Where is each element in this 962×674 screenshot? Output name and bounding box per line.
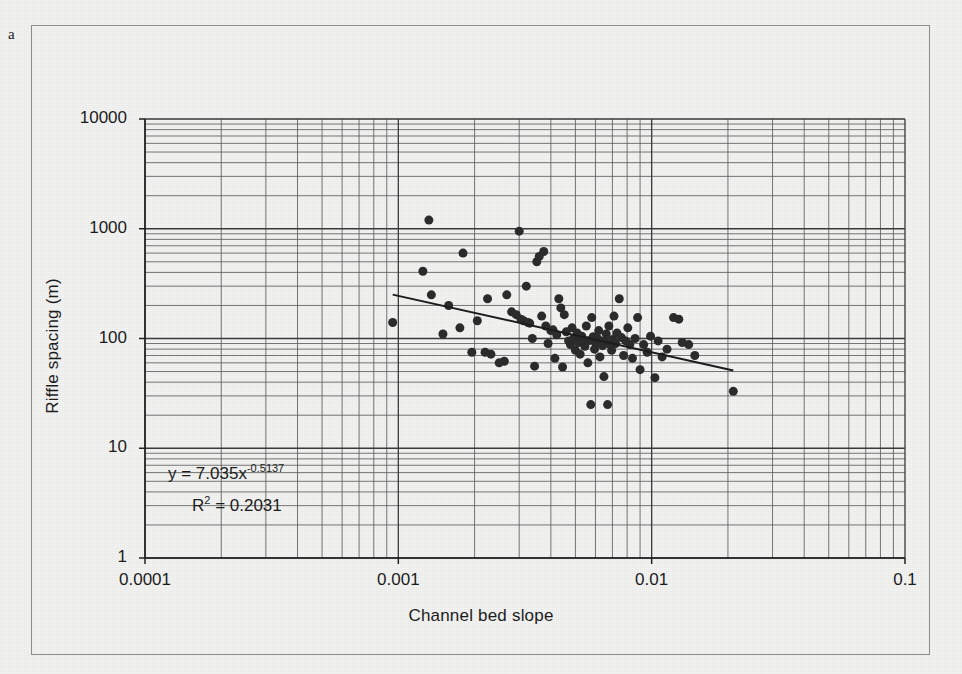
x-tick-label: 0.0001: [85, 570, 205, 590]
x-tick-label: 0.1: [845, 570, 962, 590]
y-tick-label: 1: [47, 547, 127, 567]
y-axis-title: Riffle spacing (m): [43, 231, 63, 461]
y-tick-label: 10000: [47, 108, 127, 128]
regression-equation: y = 7.035x-0.5137: [168, 455, 284, 487]
x-tick-label: 0.001: [338, 570, 458, 590]
regression-annotation: y = 7.035x-0.5137 R2 = 0.2031: [168, 455, 284, 518]
r-squared-exponent: 2: [204, 494, 210, 506]
data-points: [388, 216, 738, 410]
equation-exponent: -0.5137: [247, 462, 284, 474]
figure-panel: a 1101001000100000.00010.0010.010.1 Chan…: [0, 0, 962, 674]
x-axis-title: Channel bed slope: [0, 606, 962, 626]
r-squared-value: R2 = 0.2031: [168, 487, 284, 519]
x-tick-label: 0.01: [592, 570, 712, 590]
